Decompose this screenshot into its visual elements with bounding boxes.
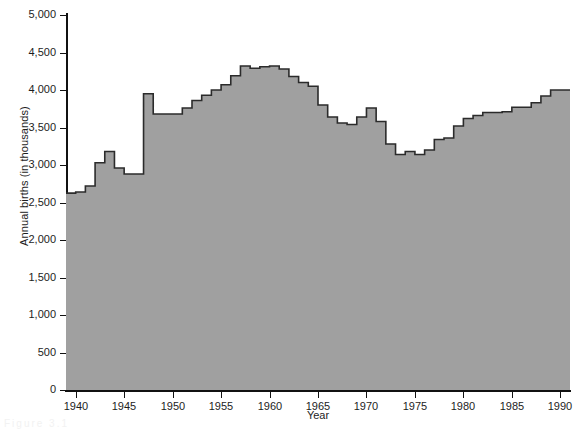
- y-tick-label: 0: [10, 383, 56, 395]
- y-tick-label: 3,500: [10, 121, 56, 133]
- plot-area: [66, 15, 570, 390]
- x-axis-title: Year: [66, 409, 570, 421]
- y-tick-label: 5,000: [10, 8, 56, 20]
- y-tick-label: 2,000: [10, 233, 56, 245]
- y-tick-label: 1,000: [10, 308, 56, 320]
- y-tick-label: 3,000: [10, 158, 56, 170]
- y-tick-0: [60, 390, 66, 391]
- x-tick-1980: [463, 392, 464, 398]
- x-tick-1940: [76, 392, 77, 398]
- y-tick-label: 500: [10, 346, 56, 358]
- x-tick-1970: [366, 392, 367, 398]
- x-tick-1985: [512, 392, 513, 398]
- figure-caption: Figure 3.1: [4, 418, 69, 429]
- annual-births-area-series: [66, 15, 570, 390]
- y-tick-label: 1,500: [10, 271, 56, 283]
- x-tick-1975: [415, 392, 416, 398]
- x-tick-1950: [173, 392, 174, 398]
- y-tick-label: 4,500: [10, 46, 56, 58]
- x-tick-1945: [124, 392, 125, 398]
- birth-rate-chart-figure: Annual births (in thousands) 05001,0001,…: [0, 0, 581, 431]
- x-tick-1955: [221, 392, 222, 398]
- y-tick-label: 2,500: [10, 196, 56, 208]
- y-tick-label: 4,000: [10, 83, 56, 95]
- area-fill: [66, 66, 570, 390]
- x-tick-1960: [270, 392, 271, 398]
- x-tick-1965: [318, 392, 319, 398]
- x-tick-1990: [560, 392, 561, 398]
